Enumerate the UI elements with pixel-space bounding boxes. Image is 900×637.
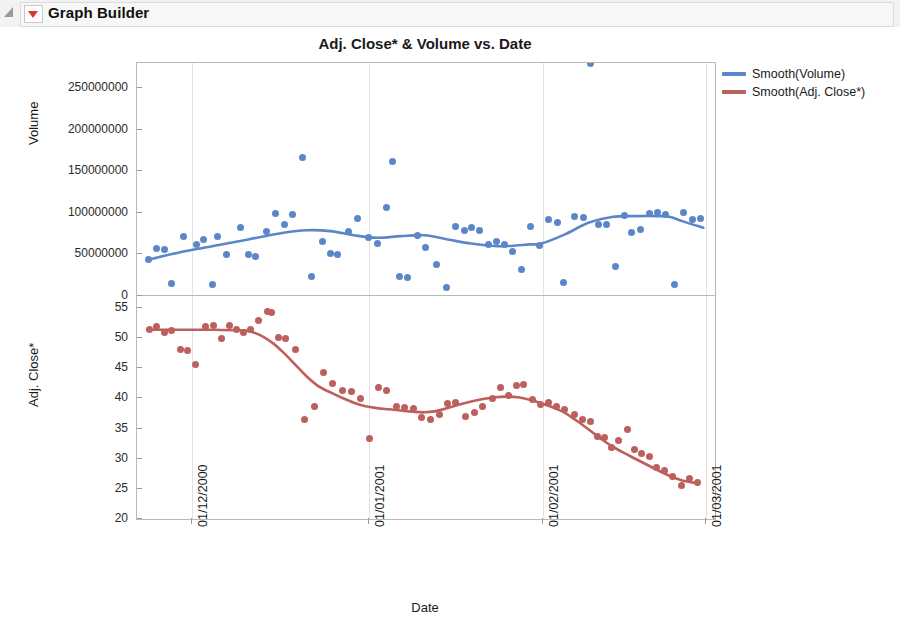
y-axis-tick-mark <box>137 212 142 213</box>
y-axis-tick-label: 25 <box>32 481 128 495</box>
data-point[interactable] <box>410 405 417 412</box>
data-point[interactable] <box>686 475 693 482</box>
data-point[interactable] <box>210 322 217 329</box>
data-point[interactable] <box>468 224 475 231</box>
data-point[interactable] <box>520 381 527 388</box>
data-point[interactable] <box>536 242 543 249</box>
data-point[interactable] <box>427 416 434 423</box>
data-point[interactable] <box>237 224 244 231</box>
triangle-collapse-icon[interactable] <box>4 7 13 17</box>
data-point[interactable] <box>671 281 678 288</box>
data-point[interactable] <box>545 399 552 406</box>
data-point[interactable] <box>374 240 381 247</box>
x-axis-tick-mark <box>542 518 543 524</box>
data-point[interactable] <box>493 238 500 245</box>
plot-panel-adj-close[interactable] <box>136 295 716 520</box>
y-axis-label-volume: Volume <box>26 102 41 145</box>
data-point[interactable] <box>654 209 661 216</box>
y-axis-tick-label: 250000000 <box>32 80 128 94</box>
data-point[interactable] <box>396 273 403 280</box>
data-point[interactable] <box>365 234 372 241</box>
data-point[interactable] <box>476 227 483 234</box>
legend-item[interactable]: Smooth(Adj. Close*) <box>722 85 897 99</box>
data-point[interactable] <box>168 327 175 334</box>
data-point[interactable] <box>233 326 240 333</box>
data-point[interactable] <box>452 399 459 406</box>
data-point[interactable] <box>319 238 326 245</box>
red-dropdown-icon[interactable] <box>24 5 43 23</box>
legend-item[interactable]: Smooth(Volume) <box>722 67 897 81</box>
data-point[interactable] <box>587 62 594 67</box>
data-point[interactable] <box>366 435 373 442</box>
data-point[interactable] <box>571 411 578 418</box>
data-point[interactable] <box>389 158 396 165</box>
data-point[interactable] <box>638 450 645 457</box>
y-axis-tick-mark <box>137 488 142 489</box>
data-point[interactable] <box>255 317 262 324</box>
data-point[interactable] <box>161 329 168 336</box>
y-axis-tick-label: 200000000 <box>32 122 128 136</box>
data-point[interactable] <box>292 346 299 353</box>
data-point[interactable] <box>168 280 175 287</box>
y-axis-tick-label: 55 <box>32 300 128 314</box>
data-point[interactable] <box>223 251 230 258</box>
x-axis-tick-label: 01/12/2000 <box>196 464 210 527</box>
plot-panel-volume[interactable] <box>136 62 716 296</box>
data-point[interactable] <box>334 251 341 258</box>
graph-builder-window: Graph Builder Adj. Close* & Volume vs. D… <box>0 0 900 637</box>
data-point[interactable] <box>209 281 216 288</box>
data-point[interactable] <box>401 404 408 411</box>
data-point[interactable] <box>497 384 504 391</box>
data-point[interactable] <box>263 228 270 235</box>
data-point[interactable] <box>537 401 544 408</box>
data-point[interactable] <box>311 403 318 410</box>
data-point[interactable] <box>247 326 254 333</box>
data-point[interactable] <box>383 387 390 394</box>
data-point[interactable] <box>579 416 586 423</box>
data-point[interactable] <box>383 204 390 211</box>
data-point[interactable] <box>327 250 334 257</box>
data-point[interactable] <box>646 210 653 217</box>
data-point[interactable] <box>339 387 346 394</box>
data-point[interactable] <box>320 369 327 376</box>
data-point[interactable] <box>631 446 638 453</box>
legend-label: Smooth(Adj. Close*) <box>752 85 865 99</box>
data-point[interactable] <box>621 212 628 219</box>
y-axis-tick-label: 40 <box>32 390 128 404</box>
data-point[interactable] <box>518 266 525 273</box>
data-point[interactable] <box>393 403 400 410</box>
data-point[interactable] <box>218 335 225 342</box>
data-point[interactable] <box>489 395 496 402</box>
y-axis-tick-mark <box>137 458 142 459</box>
data-point[interactable] <box>272 210 279 217</box>
y-axis-tick-mark <box>137 87 142 88</box>
data-point[interactable] <box>275 334 282 341</box>
data-point[interactable] <box>462 413 469 420</box>
data-point[interactable] <box>603 221 610 228</box>
data-point[interactable] <box>529 396 536 403</box>
data-point[interactable] <box>177 346 184 353</box>
data-point[interactable] <box>678 482 685 489</box>
data-point[interactable] <box>414 232 421 239</box>
data-point[interactable] <box>624 426 631 433</box>
data-point[interactable] <box>509 248 516 255</box>
data-point[interactable] <box>299 154 306 161</box>
x-axis-tick-label: 01/02/2001 <box>547 464 561 527</box>
data-point[interactable] <box>245 251 252 258</box>
y-axis-tick-label: 50 <box>32 330 128 344</box>
data-point[interactable] <box>214 233 221 240</box>
data-point[interactable] <box>180 233 187 240</box>
y-axis-tick-label: 35 <box>32 421 128 435</box>
data-point[interactable] <box>433 261 440 268</box>
data-point[interactable] <box>161 246 168 253</box>
data-point[interactable] <box>345 228 352 235</box>
data-point[interactable] <box>612 263 619 270</box>
smooth-line-volume <box>137 63 715 296</box>
data-point[interactable] <box>527 223 534 230</box>
data-point[interactable] <box>637 226 644 233</box>
data-point[interactable] <box>354 215 361 222</box>
data-point[interactable] <box>545 216 552 223</box>
data-point[interactable] <box>202 323 209 330</box>
data-point[interactable] <box>461 227 468 234</box>
data-point[interactable] <box>501 241 508 248</box>
